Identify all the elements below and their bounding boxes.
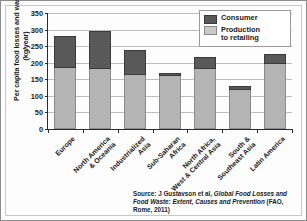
legend-label-production-to-retailing: Productionto retailing [221, 26, 260, 43]
bar-segment-production-to-retailing [89, 69, 111, 129]
bar-segment-production-to-retailing [194, 69, 216, 129]
bar-segment-consumer [124, 50, 146, 75]
y-tick-label: 150 [31, 75, 43, 84]
legend-label-line: to retailing [221, 34, 260, 43]
y-tick-label: 300 [31, 25, 43, 34]
bar-2 [124, 50, 146, 129]
y-tick-label: 250 [31, 42, 43, 51]
source-note: Source: J Gustavson et al, Global Food L… [133, 190, 295, 214]
y-tick-label: 100 [31, 91, 43, 100]
y-tick-mark [45, 46, 49, 47]
gridline [48, 63, 292, 64]
y-tick-mark [45, 79, 49, 80]
bar-segment-production-to-retailing [124, 75, 146, 129]
legend-label-line: Consumer [221, 14, 258, 23]
bar-segment-production-to-retailing [229, 90, 251, 129]
legend: Consumer Productionto retailing [199, 10, 291, 47]
bar-1 [89, 31, 111, 129]
y-tick-label: 200 [31, 58, 43, 67]
x-tick-mark [48, 129, 49, 133]
x-tick-mark [222, 129, 223, 133]
x-tick-mark [187, 129, 188, 133]
bar-segment-production-to-retailing [54, 68, 76, 129]
y-tick-mark [45, 112, 49, 113]
legend-swatch-production-to-retailing [204, 26, 217, 35]
bar-segment-consumer [54, 36, 76, 68]
x-tick-mark [292, 129, 293, 133]
x-tick-mark [118, 129, 119, 133]
x-tick-mark [83, 129, 84, 133]
legend-label-consumer: Consumer [221, 14, 258, 23]
x-tick-mark [257, 129, 258, 133]
bar-0 [54, 36, 76, 129]
y-tick-mark [45, 96, 49, 97]
legend-swatch-consumer [204, 15, 217, 24]
bar-5 [229, 86, 251, 129]
bar-4 [194, 57, 216, 129]
legend-item-consumer: Consumer [204, 14, 286, 24]
bar-segment-consumer [264, 54, 286, 63]
source-prefix: Source: J Gustavson et al, [133, 190, 214, 197]
bar-6 [264, 54, 286, 129]
y-tick-mark [45, 30, 49, 31]
bar-segment-consumer [194, 57, 216, 69]
y-tick-label: 0 [39, 125, 43, 134]
y-tick-mark [45, 13, 49, 14]
bar-segment-consumer [89, 31, 111, 69]
bar-segment-production-to-retailing [159, 76, 181, 129]
y-axis-title: Per capita food losses and waste (kg/yea… [12, 0, 30, 102]
y-tick-label: 50 [35, 108, 43, 117]
bar-segment-production-to-retailing [264, 64, 286, 129]
bar-3 [159, 73, 181, 129]
y-tick-mark [45, 63, 49, 64]
y-tick-label: 350 [31, 9, 43, 18]
legend-item-production-to-retailing: Productionto retailing [204, 26, 286, 43]
x-tick-mark [153, 129, 154, 133]
chart-figure: Per capita food losses and waste (kg/yea… [0, 0, 307, 221]
